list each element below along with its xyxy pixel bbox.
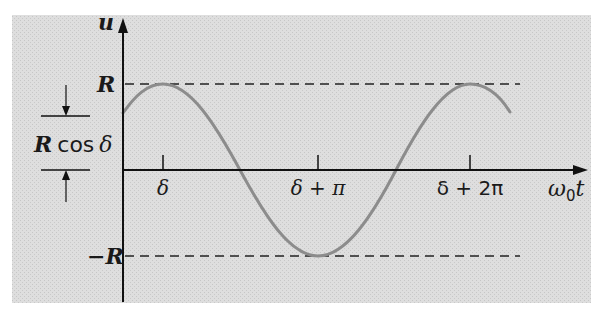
tick-label-delta: δ bbox=[157, 176, 169, 200]
phase-annotation-label: Rcosδ bbox=[33, 131, 113, 157]
tick-label-delta-plus-2pi: δ + 2π bbox=[437, 176, 503, 200]
negative-amplitude-label: −R bbox=[87, 243, 124, 269]
x-axis-label-t: t bbox=[576, 176, 585, 201]
y-axis-label: u bbox=[98, 9, 114, 35]
x-axis-label-subscript: 0 bbox=[566, 187, 576, 205]
oscillation-diagram: u R −R δ δ + π δ + 2π ω0t Rcosδ bbox=[0, 0, 593, 310]
x-axis-label-omega: ω bbox=[548, 176, 566, 201]
tick-label-delta-plus-pi: δ + π bbox=[291, 176, 347, 200]
amplitude-label: R bbox=[96, 71, 115, 97]
